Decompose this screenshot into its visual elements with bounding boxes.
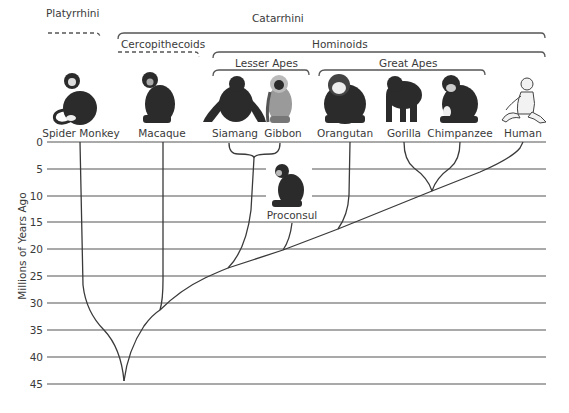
- primate-phylogeny-diagram: Platyrrhini Catarrhini Cercopithecoids H…: [0, 0, 569, 413]
- branch-orangutan: [338, 142, 350, 229]
- y-tick-40: 40: [30, 351, 43, 363]
- human-icon: [502, 78, 546, 123]
- group-label-hominoids: Hominoids: [312, 38, 368, 50]
- spider-monkey-icon: [54, 73, 97, 125]
- taxon-label-orangutan: Orangutan: [317, 127, 373, 139]
- y-tick-30: 30: [30, 297, 43, 309]
- taxon-label-gibbon: Gibbon: [264, 127, 301, 139]
- group-brackets: Platyrrhini Catarrhini Cercopithecoids H…: [46, 7, 545, 76]
- branch-lesser-apes: [228, 158, 254, 268]
- bracket-cercopithecoids: [118, 52, 199, 57]
- group-label-cercopithecoids: Cercopithecoids: [121, 38, 205, 50]
- y-axis-ticks: 0 5 10 15 20 25 30 35 40 45: [30, 136, 43, 390]
- siamang-icon: [203, 76, 266, 122]
- fossil-label-proconsul: Proconsul: [267, 209, 318, 221]
- macaque-icon: [142, 72, 175, 123]
- y-tick-25: 25: [30, 270, 43, 282]
- taxon-label-spider-monkey: Spider Monkey: [42, 127, 120, 139]
- y-tick-45: 45: [30, 378, 43, 390]
- taxon-label-gorilla: Gorilla: [387, 127, 421, 139]
- taxon-label-macaque: Macaque: [138, 127, 185, 139]
- y-axis-label: Millions of Years Ago: [16, 192, 28, 299]
- branch-macaque: [160, 142, 163, 310]
- taxon-label-siamang: Siamang: [212, 127, 258, 139]
- y-tick-10: 10: [30, 190, 43, 202]
- bracket-platyrrhini: [48, 33, 100, 38]
- bracket-great-apes: [319, 70, 485, 76]
- group-label-platyrrhini: Platyrrhini: [46, 7, 99, 19]
- orangutan-icon: [324, 74, 366, 124]
- branch-hominoid-stem: [160, 268, 228, 310]
- branch-gibbon: [254, 143, 280, 158]
- bracket-lesser-apes: [213, 70, 309, 76]
- group-label-lesser-apes: Lesser Apes: [235, 57, 298, 69]
- branch-spider-monkey: [80, 142, 124, 381]
- taxon-label-human: Human: [504, 127, 542, 139]
- chimpanzee-icon: [440, 75, 478, 123]
- y-tick-15: 15: [30, 216, 43, 228]
- group-label-great-apes: Great Apes: [379, 57, 437, 69]
- gibbon-icon: [267, 75, 292, 123]
- gorilla-icon: [386, 76, 422, 122]
- branch-siamang: [229, 143, 254, 158]
- group-label-catarrhini: Catarrhini: [252, 12, 304, 24]
- taxon-label-chimpanzee: Chimpanzee: [427, 127, 492, 139]
- y-tick-5: 5: [36, 163, 43, 175]
- branch-catarrhini-stem: [124, 310, 160, 381]
- y-tick-35: 35: [30, 324, 43, 336]
- y-tick-20: 20: [30, 243, 43, 255]
- branch-chimpanzee: [432, 142, 460, 191]
- branch-proconsul: [283, 223, 292, 250]
- proconsul-icon: [266, 158, 310, 210]
- y-tick-0: 0: [36, 136, 43, 148]
- taxa-illustrations: [54, 72, 546, 210]
- branch-gorilla: [404, 142, 432, 191]
